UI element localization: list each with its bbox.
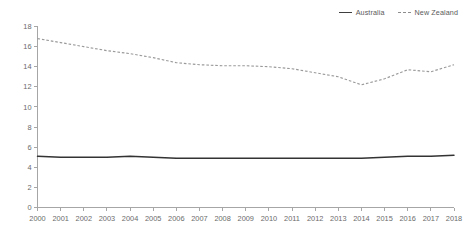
x-tick-label: 2007 xyxy=(191,214,207,223)
x-axis-ticks: 2000200120022003200420052006200720082009… xyxy=(29,208,462,224)
x-tick-label: 2018 xyxy=(446,214,462,223)
x-tick-label: 2001 xyxy=(52,214,68,223)
plot-area: 024681012141618 200020012002200320042005… xyxy=(0,0,464,238)
x-tick-label: 2015 xyxy=(376,214,392,223)
x-tick-label: 2016 xyxy=(399,214,415,223)
chart-svg: 024681012141618 200020012002200320042005… xyxy=(0,0,464,238)
x-tick-label: 2012 xyxy=(307,214,323,223)
x-tick-label: 2009 xyxy=(238,214,254,223)
x-tick-label: 2008 xyxy=(214,214,230,223)
y-tick-label: 6 xyxy=(27,143,31,152)
series-line-australia xyxy=(38,155,455,158)
y-tick-label: 16 xyxy=(23,42,31,51)
series-line-new-zealand xyxy=(38,39,455,85)
x-tick-label: 2002 xyxy=(76,214,92,223)
y-axis-ticks: 024681012141618 xyxy=(23,22,37,212)
y-tick-label: 8 xyxy=(27,123,31,132)
y-tick-label: 18 xyxy=(23,22,31,31)
y-tick-label: 0 xyxy=(27,203,31,212)
x-tick-label: 2017 xyxy=(423,214,439,223)
x-tick-label: 2011 xyxy=(284,214,300,223)
x-tick-label: 2003 xyxy=(99,214,115,223)
x-tick-label: 2013 xyxy=(330,214,346,223)
x-tick-label: 2006 xyxy=(168,214,184,223)
y-tick-label: 10 xyxy=(23,103,31,112)
x-tick-label: 2014 xyxy=(353,214,369,223)
x-tick-label: 2004 xyxy=(122,214,138,223)
y-tick-label: 12 xyxy=(23,82,31,91)
y-tick-label: 2 xyxy=(27,183,31,192)
line-chart: Australia New Zealand 024681012141618 20… xyxy=(0,0,464,238)
x-tick-label: 2000 xyxy=(29,214,45,223)
y-tick-label: 14 xyxy=(23,62,31,71)
x-tick-label: 2005 xyxy=(145,214,161,223)
y-tick-label: 4 xyxy=(27,163,31,172)
x-tick-label: 2010 xyxy=(261,214,277,223)
